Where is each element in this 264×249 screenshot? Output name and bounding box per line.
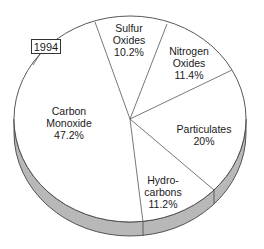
label-nitrogen-oxides: Nitrogen Oxides 11.4% bbox=[169, 45, 209, 81]
pie-chart: 1994 Sulfur Oxides 10.2% Nitrogen Oxides… bbox=[0, 0, 264, 249]
label-sulfur-oxides: Sulfur Oxides 10.2% bbox=[113, 22, 146, 58]
label-hydrocarbons: Hydro- carbons 11.2% bbox=[144, 174, 181, 210]
year-annotation: 1994 bbox=[31, 39, 61, 54]
label-particulates: Particulates 20% bbox=[177, 123, 232, 147]
label-carbon-monoxide: Carbon Monoxide 47.2% bbox=[46, 105, 92, 141]
